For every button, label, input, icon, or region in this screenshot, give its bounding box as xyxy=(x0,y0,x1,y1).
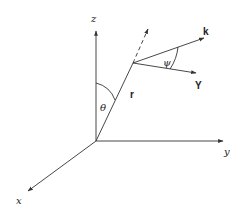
x-axis-label: x xyxy=(16,195,22,206)
z-axis-label: z xyxy=(90,13,97,24)
psi-arc xyxy=(170,47,178,69)
coordinate-diagram: z y x r k Y θ ψ xyxy=(0,0,243,217)
theta-label: θ xyxy=(100,102,106,113)
psi-label: ψ xyxy=(163,57,171,68)
Y-vector-label: Y xyxy=(195,80,202,91)
y-axis-label: y xyxy=(223,146,230,157)
k-vector-label: k xyxy=(203,26,209,37)
x-axis xyxy=(28,141,96,191)
r-vector-label: r xyxy=(130,89,134,100)
r-extension-dashed xyxy=(133,29,148,63)
theta-arc xyxy=(96,83,115,100)
